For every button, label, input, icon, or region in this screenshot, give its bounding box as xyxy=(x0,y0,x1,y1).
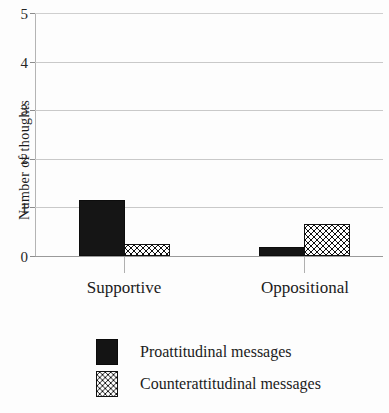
bar-oppositional-counterattitudinal xyxy=(304,224,350,256)
legend-label-proattitudinal: Proattitudinal messages xyxy=(140,343,292,361)
y-tick-label-2: 2 xyxy=(16,152,28,167)
bar-oppositional-proattitudinal xyxy=(259,247,305,256)
y-tick-label-1: 1 xyxy=(16,201,28,216)
legend-swatch-checker-icon xyxy=(96,371,118,397)
category-label-supportive: Supportive xyxy=(64,279,184,298)
legend-label-counterattitudinal: Counterattitudinal messages xyxy=(140,375,321,393)
gridline-3 xyxy=(35,110,383,111)
category-tick-oppositional xyxy=(304,257,305,273)
gridline-0-baseline xyxy=(35,256,383,257)
gridline-2 xyxy=(35,159,383,160)
bar-supportive-counterattitudinal xyxy=(124,244,170,256)
legend-item-counterattitudinal: Counterattitudinal messages xyxy=(96,368,321,400)
y-tick-label-3: 3 xyxy=(16,103,28,118)
category-label-oppositional: Oppositional xyxy=(243,279,367,298)
bar-supportive-proattitudinal xyxy=(79,200,125,256)
gridline-5 xyxy=(35,13,383,14)
legend-swatch-solid-icon xyxy=(96,339,118,365)
chart-legend: Proattitudinal messages Counterattitudin… xyxy=(96,336,321,400)
legend-item-proattitudinal: Proattitudinal messages xyxy=(96,336,321,368)
gridline-4 xyxy=(35,62,383,63)
y-tick-label-0: 0 xyxy=(16,250,28,265)
y-tick-label-4: 4 xyxy=(16,56,28,71)
category-tick-supportive xyxy=(124,257,125,273)
plot-area xyxy=(35,13,383,256)
bar-chart: Number of thoughts 5 4 3 2 1 0 Supportiv… xyxy=(0,0,389,413)
y-tick-label-5: 5 xyxy=(16,7,28,22)
